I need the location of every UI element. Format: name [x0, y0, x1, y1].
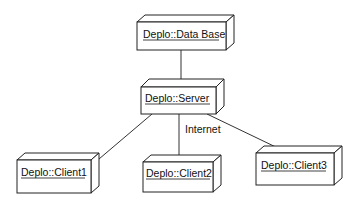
node-label-client1: Deplo::Client1 — [21, 166, 87, 178]
node-client3[interactable]: Deplo::Client3 — [256, 146, 342, 185]
edge-label-internet: Internet — [185, 123, 221, 135]
node-label-database: Deplo::Data Base — [143, 28, 225, 40]
node-client1[interactable]: Deplo::Client1 — [17, 153, 99, 193]
node-client2[interactable]: Deplo::Client2 — [143, 155, 221, 192]
deployment-diagram: Internet Deplo::Data Base Deplo::Server … — [0, 0, 357, 207]
node-database[interactable]: Deplo::Data Base — [137, 15, 234, 50]
node-label-server: Deplo::Server — [145, 92, 210, 104]
edge-server-client1 — [99, 114, 152, 159]
node-label-client2: Deplo::Client2 — [146, 167, 212, 179]
node-label-client3: Deplo::Client3 — [261, 159, 327, 171]
node-server[interactable]: Deplo::Server — [141, 79, 224, 114]
